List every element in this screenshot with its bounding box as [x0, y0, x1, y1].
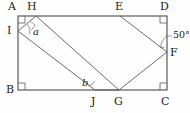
- angle-measure-50: 50°: [173, 30, 190, 40]
- vertex-label-E: E: [115, 1, 123, 12]
- fold-line-HG: [36, 16, 119, 90]
- right-angle-mark-A: [18, 16, 25, 23]
- vertex-label-D: D: [160, 1, 169, 12]
- right-angle-mark-D: [160, 16, 167, 23]
- right-angle-mark-B: [18, 83, 25, 90]
- rectangle-ABCD: [18, 16, 167, 90]
- vertex-label-J: J: [91, 96, 95, 107]
- vertex-label-B: B: [6, 84, 14, 95]
- vertex-label-F: F: [170, 47, 178, 58]
- vertex-label-G: G: [114, 96, 123, 107]
- vertex-label-C: C: [161, 96, 169, 107]
- right-angle-mark-C: [160, 83, 167, 90]
- diagram-canvas: A H E D I F B J G C a b 50°: [0, 0, 190, 113]
- angle-label-a: a: [33, 27, 39, 37]
- vertex-label-I: I: [7, 25, 11, 36]
- vertex-label-H: H: [27, 1, 37, 12]
- angle-arc-50: [161, 36, 168, 48]
- angle-label-b: b: [82, 78, 88, 88]
- vertex-label-A: A: [8, 1, 16, 12]
- angle-arc-a: [28, 24, 31, 34]
